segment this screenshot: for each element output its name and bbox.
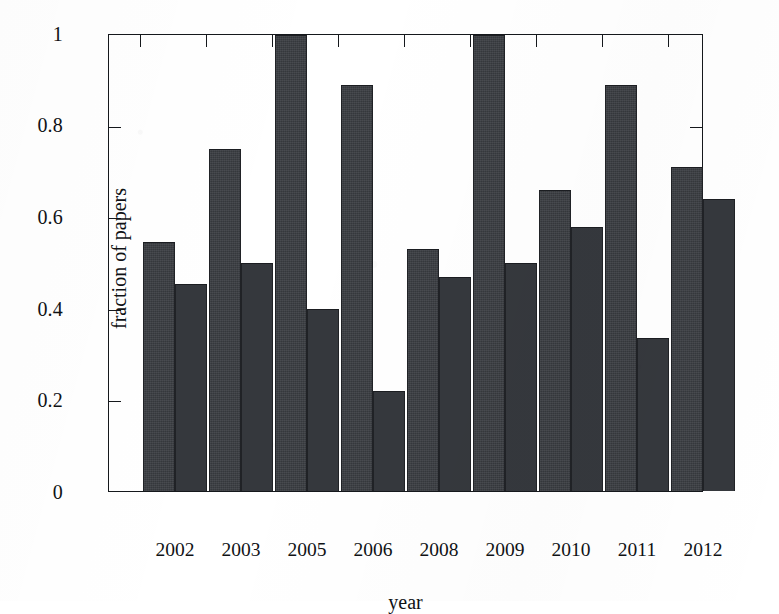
bar-group-2006 [341, 35, 407, 491]
bar-group-2008 [407, 35, 473, 491]
x-axis-label: year [109, 591, 702, 614]
ytick-label-0-2: 0.2 [37, 390, 63, 410]
bars-layer [109, 35, 702, 491]
bar-2010-b [571, 227, 603, 491]
xtick-label-2006: 2006 [354, 539, 393, 561]
bar-2012-a [671, 167, 703, 491]
bar-group-2002 [143, 35, 209, 491]
y-axis-label: fraction of papers [108, 109, 131, 409]
plot-area: 2002 2003 2005 2006 2008 2009 2010 2011 … [108, 34, 703, 492]
bar-group-2011 [605, 35, 671, 491]
bar-2002-a [143, 242, 175, 491]
bar-2003-b [241, 263, 273, 491]
bar-2002-b [175, 284, 207, 491]
bar-group-2003 [209, 35, 275, 491]
ytick-label-0: 0 [53, 482, 63, 502]
bar-2011-b [637, 338, 669, 491]
ytick-label-0-4: 0.4 [37, 299, 63, 319]
bar-group-2010 [539, 35, 605, 491]
bar-2005-a [275, 35, 307, 491]
bar-2005-b [307, 309, 339, 491]
ytick-label-1: 1 [53, 24, 63, 44]
bar-2006-b [373, 391, 405, 491]
bar-2011-a [605, 85, 637, 491]
bar-group-2012 [671, 35, 737, 491]
xtick-label-2011: 2011 [618, 539, 656, 561]
ytick-label-0-8: 0.8 [37, 115, 63, 135]
bar-group-2009 [473, 35, 539, 491]
bar-group-2005 [275, 35, 341, 491]
xtick-label-2010: 2010 [552, 539, 591, 561]
bar-2012-b [703, 199, 735, 491]
bar-2009-b [505, 263, 537, 491]
xtick-label-2002: 2002 [156, 539, 195, 561]
xtick-label-2005: 2005 [288, 539, 327, 561]
xtick-label-2008: 2008 [420, 539, 459, 561]
bar-2008-b [439, 277, 471, 491]
xtick-label-2012: 2012 [684, 539, 723, 561]
bar-2003-a [209, 149, 241, 491]
bar-2009-a [473, 35, 505, 491]
bar-2006-a [341, 85, 373, 491]
xtick-label-2003: 2003 [222, 539, 261, 561]
bar-2008-a [407, 249, 439, 491]
ytick-label-0-6: 0.6 [37, 207, 63, 227]
xtick-label-2009: 2009 [486, 539, 525, 561]
bar-2010-a [539, 190, 571, 491]
